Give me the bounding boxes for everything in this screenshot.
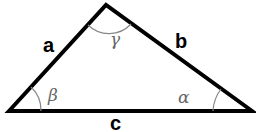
angle-label-beta: β (47, 85, 58, 105)
triangle-outline (9, 5, 252, 111)
side-label-a: a (43, 34, 55, 56)
angle-label-gamma: γ (110, 29, 121, 49)
angle-arc-alpha (213, 89, 221, 111)
side-label-b: b (175, 30, 187, 52)
angle-arc-beta (31, 87, 41, 111)
triangle-diagram: a b c β α γ (0, 0, 256, 132)
side-label-c: c (110, 112, 121, 132)
angle-label-alpha: α (178, 87, 190, 107)
